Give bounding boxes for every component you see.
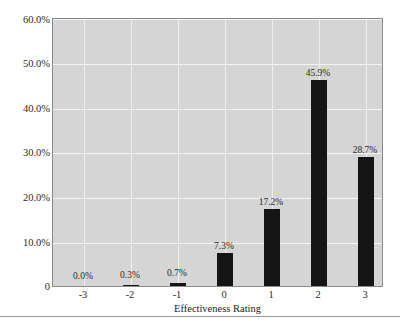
bar-rect bbox=[311, 80, 327, 286]
bar-chart-figure: 60.0% 50.0% 40.0% 30.0% 20.0% 10.0% 0 0.… bbox=[0, 0, 400, 327]
gridline-horizontal bbox=[53, 64, 382, 65]
bar-rect bbox=[170, 283, 186, 286]
x-tick-label: 2 bbox=[298, 290, 338, 301]
bar-value-label: 0.0% bbox=[60, 272, 106, 282]
y-tick-label: 0 bbox=[4, 282, 50, 293]
x-tick-label: 3 bbox=[345, 290, 385, 301]
bar-value-label: 0.7% bbox=[154, 269, 200, 279]
bar-rect bbox=[264, 209, 280, 286]
bar-rect bbox=[123, 285, 139, 286]
y-tick-label: 50.0% bbox=[4, 59, 50, 70]
bar-value-label: 45.9% bbox=[295, 69, 341, 79]
bar-value-label: 17.2% bbox=[248, 198, 294, 208]
y-tick-label: 60.0% bbox=[4, 15, 50, 26]
gridline-vertical bbox=[131, 19, 132, 286]
x-tick-label: -2 bbox=[110, 290, 150, 301]
bar-value-label: 0.3% bbox=[107, 271, 153, 281]
y-tick-label: 20.0% bbox=[4, 193, 50, 204]
gridline-horizontal bbox=[53, 198, 382, 199]
bar-value-label: 28.7% bbox=[342, 146, 388, 156]
x-axis-title: Effectiveness Rating bbox=[52, 303, 383, 314]
y-tick-label: 30.0% bbox=[4, 148, 50, 159]
y-axis: 60.0% 50.0% 40.0% 30.0% 20.0% 10.0% 0 bbox=[0, 0, 50, 327]
bar-value-label: 7.3% bbox=[201, 242, 247, 252]
gridline-vertical bbox=[84, 19, 85, 286]
y-tick-label: 40.0% bbox=[4, 104, 50, 115]
gridline-vertical bbox=[178, 19, 179, 286]
x-tick-label: 1 bbox=[251, 290, 291, 301]
x-tick-label: 0 bbox=[204, 290, 244, 301]
x-tick-label: -1 bbox=[157, 290, 197, 301]
gridline-horizontal bbox=[53, 19, 382, 20]
bottom-divider bbox=[0, 316, 400, 317]
gridline-horizontal bbox=[53, 109, 382, 110]
bar-rect bbox=[358, 157, 374, 286]
x-tick-label: -3 bbox=[63, 290, 103, 301]
y-tick-label: 10.0% bbox=[4, 238, 50, 249]
gridline-horizontal bbox=[53, 153, 382, 154]
bar-rect bbox=[217, 253, 233, 286]
